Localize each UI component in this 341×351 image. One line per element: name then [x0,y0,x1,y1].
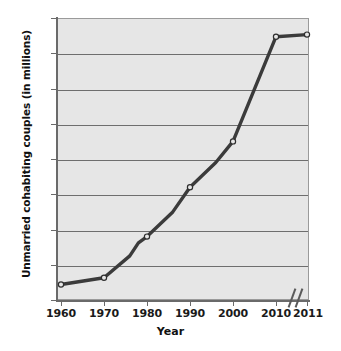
y-tick-mark [51,124,57,125]
y-axis-title: Unmarried cohabiting couples (in million… [20,20,32,288]
line-chart: 0 1.0 2.0 3.0 4.0 5.0 6.0 7.0 8.0 Unmarr… [0,0,341,351]
x-tick-label: 2011 [283,307,333,320]
y-tick-mark [51,53,57,54]
x-tick-mark [61,301,62,306]
y-tick-mark [51,265,57,266]
y-tick-mark [51,159,57,160]
y-tick-mark [51,18,57,19]
x-tick-mark [233,301,234,306]
x-tick-mark [307,301,308,306]
x-tick-mark [276,301,277,306]
x-tick-mark [147,301,148,306]
x-tick-mark [104,301,105,306]
y-tick-mark [51,230,57,231]
y-tick-mark [51,300,57,301]
y-tick-mark [51,194,57,195]
x-tick-mark [190,301,191,306]
y-tick-mark [51,89,57,90]
x-axis-title: Year [0,325,341,338]
